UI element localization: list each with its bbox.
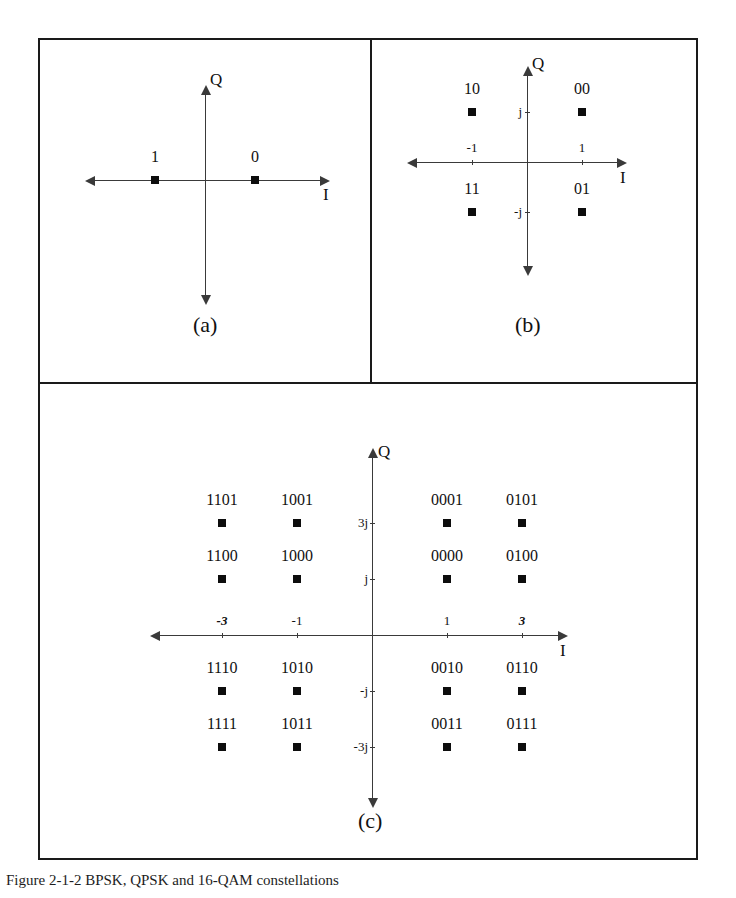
constellation-point [468, 208, 476, 216]
constellation-point-label: 0110 [492, 659, 552, 677]
panel-qpsk: I Q -1 1 j -j 10 00 11 01 (b) [372, 40, 696, 382]
constellation-point [293, 575, 301, 583]
i-axis-tick-label: 1 [432, 613, 462, 629]
i-axis-left-arrow-c [150, 631, 160, 641]
constellation-point-label: 1 [135, 148, 175, 166]
i-axis-tick-label: -1 [282, 613, 312, 629]
i-axis-label-b: I [620, 168, 626, 188]
constellation-point-label: 1001 [267, 491, 327, 509]
i-axis-tick [297, 633, 298, 638]
i-axis-line-c [160, 635, 558, 636]
panel-16qam: I Q -3 -1 1 3 3j j -j -3j 1101 1001 0001 [40, 384, 696, 858]
q-axis-tick-label: j [346, 571, 368, 587]
constellation-point-label: 00 [562, 80, 602, 98]
figure-frame: I Q 1 0 (a) I Q -1 1 j -j [38, 38, 698, 860]
constellation-point [218, 743, 226, 751]
q-axis-tick [370, 579, 375, 580]
constellation-point [218, 687, 226, 695]
i-axis-line-a [95, 180, 320, 181]
i-axis-left-arrow-b [407, 158, 417, 168]
i-axis-tick [522, 633, 523, 638]
constellation-point [518, 743, 526, 751]
i-axis-tick [582, 160, 583, 165]
i-axis-label-a: I [323, 185, 329, 205]
constellation-point-label: 0010 [417, 659, 477, 677]
constellation-point-label: 1101 [192, 491, 252, 509]
q-axis-tick [370, 523, 375, 524]
q-axis-down-arrow-c [368, 798, 378, 808]
i-axis-right-arrow-c [558, 631, 568, 641]
constellation-point-label: 1011 [267, 715, 327, 733]
figure-caption: Figure 2-1-2 BPSK, QPSK and 16-QAM const… [6, 872, 726, 889]
constellation-point [443, 743, 451, 751]
q-axis-tick-label: j [504, 104, 522, 120]
panel-caption-c: (c) [358, 808, 382, 834]
i-axis-label-c: I [560, 641, 566, 661]
q-axis-tick [525, 112, 530, 113]
panel-caption-b: (b) [515, 312, 541, 338]
q-axis-down-arrow-b [523, 266, 533, 276]
q-axis-tick [370, 691, 375, 692]
constellation-point [518, 575, 526, 583]
constellation-point-label: 1111 [192, 715, 252, 733]
i-axis-tick-label: -3 [207, 613, 237, 629]
q-axis-line-a [205, 95, 206, 295]
constellation-point-label: 0011 [417, 715, 477, 733]
q-axis-down-arrow-a [201, 295, 211, 305]
i-axis-right-arrow-a [320, 176, 330, 186]
constellation-point [468, 108, 476, 116]
constellation-point [578, 108, 586, 116]
panel-caption-a: (a) [193, 312, 217, 338]
constellation-point-label: 0 [235, 148, 275, 166]
constellation-point-label: 0001 [417, 491, 477, 509]
q-axis-tick-label: -j [500, 204, 522, 220]
constellation-point [443, 575, 451, 583]
constellation-point-label: 10 [452, 80, 492, 98]
constellation-point [293, 743, 301, 751]
panel-bpsk: I Q 1 0 (a) [40, 40, 370, 382]
constellation-point-label: 1110 [192, 659, 252, 677]
constellation-point-label: 0000 [417, 547, 477, 565]
q-axis-tick-label: -j [342, 683, 368, 699]
q-axis-tick-label: 3j [340, 515, 368, 531]
i-axis-tick [472, 160, 473, 165]
i-axis-line-b [417, 162, 617, 163]
constellation-point-label: 11 [452, 180, 492, 198]
q-axis-line-b [527, 76, 528, 266]
constellation-point-label: 1100 [192, 547, 252, 565]
constellation-point [218, 575, 226, 583]
i-axis-tick-label: 1 [567, 140, 597, 156]
constellation-point [518, 687, 526, 695]
q-axis-label-c: Q [378, 442, 390, 462]
constellation-point [293, 687, 301, 695]
constellation-point [443, 687, 451, 695]
q-axis-up-arrow-c [368, 448, 378, 458]
constellation-point-label: 1000 [267, 547, 327, 565]
constellation-point [443, 519, 451, 527]
i-axis-tick-label: 3 [507, 613, 537, 629]
q-axis-up-arrow-a [201, 85, 211, 95]
q-axis-tick [525, 212, 530, 213]
constellation-point [218, 519, 226, 527]
i-axis-tick [447, 633, 448, 638]
q-axis-label-b: Q [532, 54, 544, 74]
constellation-point-label: 1010 [267, 659, 327, 677]
constellation-point [518, 519, 526, 527]
i-axis-tick-label: -1 [457, 140, 487, 156]
constellation-point-label: 0100 [492, 547, 552, 565]
constellation-point [151, 176, 159, 184]
constellation-point-label: 0101 [492, 491, 552, 509]
constellation-point [293, 519, 301, 527]
constellation-point-label: 01 [562, 180, 602, 198]
constellation-point-label: 0111 [492, 715, 552, 733]
i-axis-left-arrow-a [85, 176, 95, 186]
constellation-point [578, 208, 586, 216]
q-axis-label-a: Q [210, 70, 222, 90]
q-axis-tick [370, 747, 375, 748]
i-axis-tick [222, 633, 223, 638]
q-axis-tick-label: -3j [336, 739, 368, 755]
constellation-point [251, 176, 259, 184]
i-axis-right-arrow-b [617, 158, 627, 168]
q-axis-up-arrow-b [523, 66, 533, 76]
